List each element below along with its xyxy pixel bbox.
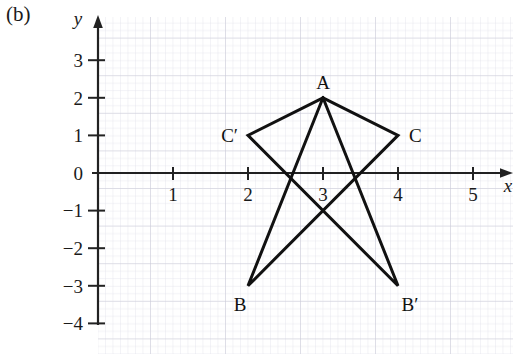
x-axis-label: x	[503, 175, 513, 196]
y-tick-label-neg1: −1	[63, 200, 83, 221]
vertex-label-c-prime: C′	[221, 125, 238, 146]
vertex-label-b: B	[234, 294, 247, 315]
y-axis-label: y	[72, 8, 83, 29]
x-tick-label-3: 3	[318, 184, 328, 205]
x-tick-label-5: 5	[468, 184, 478, 205]
y-tick-label-1: 1	[74, 125, 84, 146]
y-tick-label-neg3: −3	[63, 276, 83, 297]
coordinate-plot: 1 2 3 4 5 3 2 1 0 −1 −2 −3 −4 y x A C C′…	[0, 0, 515, 354]
y-tick-label-neg4: −4	[63, 313, 84, 334]
y-tick-label-2: 2	[74, 88, 84, 109]
x-tick-label-1: 1	[168, 184, 178, 205]
figure-container: (b)	[0, 0, 515, 354]
y-tick-label-0: 0	[74, 163, 84, 184]
y-tick-label-3: 3	[74, 50, 84, 71]
vertex-label-c: C	[409, 125, 422, 146]
x-tick-label-4: 4	[393, 184, 403, 205]
x-tick-label-2: 2	[243, 184, 253, 205]
vertex-label-b-prime: B′	[402, 294, 419, 315]
y-tick-label-neg2: −2	[63, 238, 83, 259]
grid-background	[98, 17, 513, 354]
vertex-label-a: A	[316, 72, 330, 93]
